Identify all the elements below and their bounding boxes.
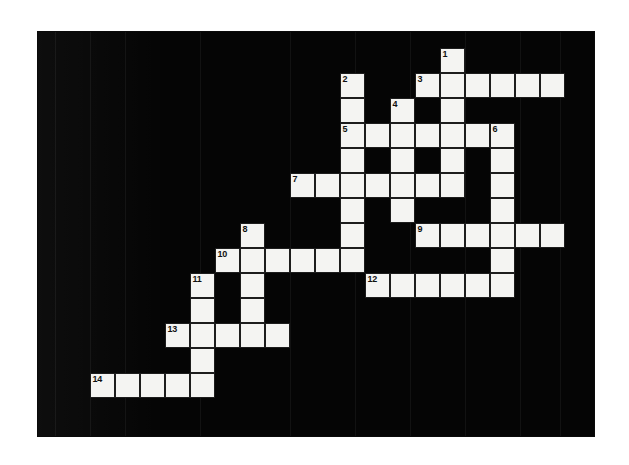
crossword-cell[interactable] bbox=[215, 323, 240, 348]
crossword-cell[interactable] bbox=[440, 73, 465, 98]
crossword-cell[interactable] bbox=[390, 173, 415, 198]
crossword-cell[interactable] bbox=[290, 248, 315, 273]
crossword-cell[interactable] bbox=[440, 223, 465, 248]
crossword-cell-numbered-12[interactable]: 12 bbox=[365, 273, 390, 298]
crossword-cell-numbered-7[interactable]: 7 bbox=[290, 173, 315, 198]
crossword-cell[interactable] bbox=[315, 248, 340, 273]
crossword-cell-numbered-2[interactable]: 2 bbox=[340, 73, 365, 98]
crossword-cell[interactable] bbox=[490, 248, 515, 273]
crossword-cell[interactable] bbox=[490, 148, 515, 173]
crossword-cell[interactable] bbox=[390, 148, 415, 173]
crossword-cell-numbered-8[interactable]: 8 bbox=[240, 223, 265, 248]
crossword-cell[interactable] bbox=[115, 373, 140, 398]
crossword-cell[interactable] bbox=[340, 148, 365, 173]
crossword-cell[interactable] bbox=[415, 123, 440, 148]
crossword-cell[interactable] bbox=[340, 198, 365, 223]
crossword-cell[interactable] bbox=[465, 273, 490, 298]
crossword-cell[interactable] bbox=[340, 223, 365, 248]
clue-number-10: 10 bbox=[218, 249, 227, 259]
clue-number-1: 1 bbox=[443, 49, 448, 59]
crossword-cell[interactable] bbox=[515, 223, 540, 248]
crossword-cell-numbered-9[interactable]: 9 bbox=[415, 223, 440, 248]
crossword-cell[interactable] bbox=[465, 123, 490, 148]
clue-number-4: 4 bbox=[393, 99, 398, 109]
clue-number-9: 9 bbox=[418, 224, 423, 234]
crossword-cell[interactable] bbox=[415, 273, 440, 298]
crossword-cell[interactable] bbox=[440, 273, 465, 298]
crossword-cell[interactable] bbox=[440, 148, 465, 173]
crossword-cell[interactable] bbox=[240, 298, 265, 323]
crossword-cell[interactable] bbox=[190, 323, 215, 348]
crossword-cell[interactable] bbox=[440, 123, 465, 148]
crossword-cell[interactable] bbox=[490, 198, 515, 223]
crossword-cell[interactable] bbox=[190, 298, 215, 323]
crossword-cell[interactable] bbox=[265, 248, 290, 273]
crossword-cell-numbered-5[interactable]: 5 bbox=[340, 123, 365, 148]
clue-number-14: 14 bbox=[93, 374, 102, 384]
crossword-cell[interactable] bbox=[390, 198, 415, 223]
crossword-cell[interactable] bbox=[490, 173, 515, 198]
clue-number-8: 8 bbox=[243, 224, 248, 234]
crossword-cell[interactable] bbox=[340, 173, 365, 198]
crossword-cell[interactable] bbox=[365, 173, 390, 198]
clue-number-2: 2 bbox=[343, 74, 348, 84]
crossword-cell-numbered-3[interactable]: 3 bbox=[415, 73, 440, 98]
crossword-cell[interactable] bbox=[140, 373, 165, 398]
crossword-grid[interactable]: 1234567891011121314 bbox=[0, 0, 629, 465]
crossword-cell[interactable] bbox=[165, 373, 190, 398]
crossword-cell[interactable] bbox=[315, 173, 340, 198]
crossword-cell[interactable] bbox=[365, 123, 390, 148]
crossword-cell-numbered-11[interactable]: 11 bbox=[190, 273, 215, 298]
crossword-cell[interactable] bbox=[490, 223, 515, 248]
clue-number-13: 13 bbox=[168, 324, 177, 334]
clue-number-3: 3 bbox=[418, 74, 423, 84]
crossword-cell[interactable] bbox=[240, 248, 265, 273]
crossword-cell-numbered-1[interactable]: 1 bbox=[440, 48, 465, 73]
page-background: 1234567891011121314 bbox=[0, 0, 629, 465]
crossword-cell-numbered-14[interactable]: 14 bbox=[90, 373, 115, 398]
clue-number-5: 5 bbox=[343, 124, 348, 134]
clue-number-11: 11 bbox=[193, 274, 202, 284]
crossword-cell[interactable] bbox=[240, 273, 265, 298]
crossword-cell[interactable] bbox=[490, 273, 515, 298]
crossword-cell-numbered-13[interactable]: 13 bbox=[165, 323, 190, 348]
crossword-cell[interactable] bbox=[540, 223, 565, 248]
crossword-cell[interactable] bbox=[515, 73, 540, 98]
crossword-cell[interactable] bbox=[190, 348, 215, 373]
crossword-cell[interactable] bbox=[465, 73, 490, 98]
crossword-cell[interactable] bbox=[190, 373, 215, 398]
crossword-cell[interactable] bbox=[390, 123, 415, 148]
crossword-cell[interactable] bbox=[415, 173, 440, 198]
crossword-cell[interactable] bbox=[490, 73, 515, 98]
crossword-cell[interactable] bbox=[390, 273, 415, 298]
crossword-cell[interactable] bbox=[265, 323, 290, 348]
crossword-cell-numbered-10[interactable]: 10 bbox=[215, 248, 240, 273]
crossword-cell[interactable] bbox=[465, 223, 490, 248]
clue-number-7: 7 bbox=[293, 174, 298, 184]
crossword-cell[interactable] bbox=[440, 173, 465, 198]
crossword-cell[interactable] bbox=[340, 98, 365, 123]
crossword-cell[interactable] bbox=[240, 323, 265, 348]
crossword-cell[interactable] bbox=[340, 248, 365, 273]
clue-number-6: 6 bbox=[493, 124, 498, 134]
crossword-cell[interactable] bbox=[440, 98, 465, 123]
clue-number-12: 12 bbox=[368, 274, 377, 284]
crossword-cell-numbered-4[interactable]: 4 bbox=[390, 98, 415, 123]
crossword-cell-numbered-6[interactable]: 6 bbox=[490, 123, 515, 148]
crossword-cell[interactable] bbox=[540, 73, 565, 98]
